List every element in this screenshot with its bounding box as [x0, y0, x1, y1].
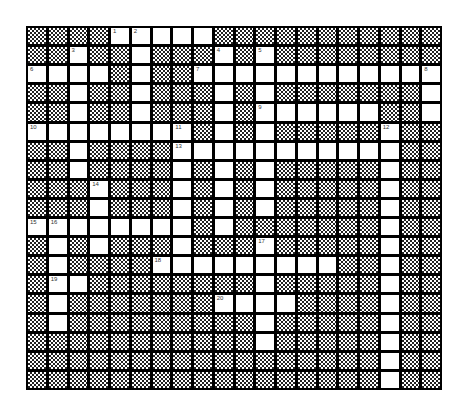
crossword-cell[interactable]: [70, 85, 88, 101]
crossword-cell[interactable]: 17: [256, 238, 274, 254]
crossword-cell[interactable]: 5: [256, 47, 274, 63]
crossword-cell[interactable]: [256, 162, 274, 178]
crossword-cell[interactable]: [256, 66, 274, 82]
crossword-cell[interactable]: [236, 295, 254, 311]
crossword-cell[interactable]: [256, 124, 274, 140]
crossword-cell[interactable]: [153, 124, 171, 140]
crossword-cell[interactable]: [339, 104, 357, 120]
crossword-cell[interactable]: [132, 124, 150, 140]
crossword-cell[interactable]: 6: [28, 66, 46, 82]
crossword-cell[interactable]: 4: [215, 47, 233, 63]
crossword-cell[interactable]: [381, 162, 399, 178]
crossword-cell[interactable]: [111, 124, 129, 140]
crossword-cell[interactable]: 18: [153, 257, 171, 273]
crossword-cell[interactable]: [70, 104, 88, 120]
crossword-cell[interactable]: 8: [422, 66, 440, 82]
crossword-cell[interactable]: 2: [132, 28, 150, 44]
crossword-cell[interactable]: [70, 276, 88, 292]
crossword-cell[interactable]: [256, 334, 274, 350]
crossword-cell[interactable]: [90, 238, 108, 254]
crossword-cell[interactable]: [173, 257, 191, 273]
crossword-cell[interactable]: [256, 85, 274, 101]
crossword-cell[interactable]: [173, 28, 191, 44]
crossword-cell[interactable]: [90, 66, 108, 82]
crossword-cell[interactable]: [298, 66, 316, 82]
crossword-cell[interactable]: [381, 315, 399, 331]
crossword-cell[interactable]: [194, 143, 212, 159]
crossword-cell[interactable]: [153, 28, 171, 44]
crossword-cell[interactable]: [360, 143, 378, 159]
crossword-cell[interactable]: [90, 124, 108, 140]
crossword-cell[interactable]: [49, 66, 67, 82]
crossword-cell[interactable]: [90, 200, 108, 216]
crossword-cell[interactable]: [256, 181, 274, 197]
crossword-cell[interactable]: [132, 66, 150, 82]
crossword-cell[interactable]: 16: [49, 219, 67, 235]
crossword-cell[interactable]: [173, 200, 191, 216]
crossword-cell[interactable]: 12: [381, 124, 399, 140]
crossword-cell[interactable]: [236, 143, 254, 159]
crossword-cell[interactable]: [339, 143, 357, 159]
crossword-cell[interactable]: [256, 143, 274, 159]
crossword-cell[interactable]: [381, 219, 399, 235]
crossword-cell[interactable]: [215, 219, 233, 235]
crossword-cell[interactable]: [70, 143, 88, 159]
crossword-cell[interactable]: [215, 257, 233, 273]
crossword-cell[interactable]: [319, 104, 337, 120]
crossword-cell[interactable]: [215, 104, 233, 120]
crossword-cell[interactable]: [277, 257, 295, 273]
crossword-cell[interactable]: 19: [49, 276, 67, 292]
crossword-cell[interactable]: [236, 257, 254, 273]
crossword-cell[interactable]: [173, 238, 191, 254]
crossword-cell[interactable]: [298, 257, 316, 273]
crossword-cell[interactable]: [277, 66, 295, 82]
crossword-cell[interactable]: [256, 200, 274, 216]
crossword-cell[interactable]: [256, 295, 274, 311]
crossword-cell[interactable]: [90, 219, 108, 235]
crossword-cell[interactable]: [339, 66, 357, 82]
crossword-cell[interactable]: [215, 66, 233, 82]
crossword-cell[interactable]: [70, 162, 88, 178]
crossword-cell[interactable]: [70, 124, 88, 140]
crossword-cell[interactable]: [256, 315, 274, 331]
crossword-cell[interactable]: [194, 28, 212, 44]
crossword-cell[interactable]: [132, 219, 150, 235]
crossword-cell[interactable]: [381, 181, 399, 197]
crossword-cell[interactable]: [298, 143, 316, 159]
crossword-cell[interactable]: [319, 257, 337, 273]
crossword-cell[interactable]: [277, 295, 295, 311]
crossword-cell[interactable]: [319, 143, 337, 159]
crossword-cell[interactable]: [49, 315, 67, 331]
crossword-cell[interactable]: [215, 162, 233, 178]
crossword-cell[interactable]: [215, 200, 233, 216]
crossword-cell[interactable]: [381, 276, 399, 292]
crossword-cell[interactable]: [360, 66, 378, 82]
crossword-cell[interactable]: [215, 143, 233, 159]
crossword-cell[interactable]: [173, 219, 191, 235]
crossword-cell[interactable]: 1: [111, 28, 129, 44]
crossword-cell[interactable]: [173, 162, 191, 178]
crossword-cell[interactable]: 9: [256, 104, 274, 120]
crossword-cell[interactable]: [256, 276, 274, 292]
crossword-cell[interactable]: [298, 104, 316, 120]
crossword-cell[interactable]: [381, 353, 399, 369]
crossword-cell[interactable]: [422, 85, 440, 101]
crossword-cell[interactable]: [236, 66, 254, 82]
crossword-cell[interactable]: [381, 238, 399, 254]
crossword-cell[interactable]: 13: [173, 143, 191, 159]
crossword-cell[interactable]: [49, 238, 67, 254]
crossword-cell[interactable]: [215, 181, 233, 197]
crossword-cell[interactable]: 20: [215, 295, 233, 311]
crossword-cell[interactable]: [381, 66, 399, 82]
crossword-cell[interactable]: [422, 104, 440, 120]
crossword-cell[interactable]: [277, 104, 295, 120]
crossword-cell[interactable]: [132, 47, 150, 63]
crossword-cell[interactable]: [360, 104, 378, 120]
crossword-cell[interactable]: 14: [90, 181, 108, 197]
crossword-cell[interactable]: [381, 200, 399, 216]
crossword-cell[interactable]: [381, 334, 399, 350]
crossword-cell[interactable]: [215, 85, 233, 101]
crossword-cell[interactable]: [319, 66, 337, 82]
crossword-cell[interactable]: [49, 124, 67, 140]
crossword-cell[interactable]: 11: [173, 124, 191, 140]
